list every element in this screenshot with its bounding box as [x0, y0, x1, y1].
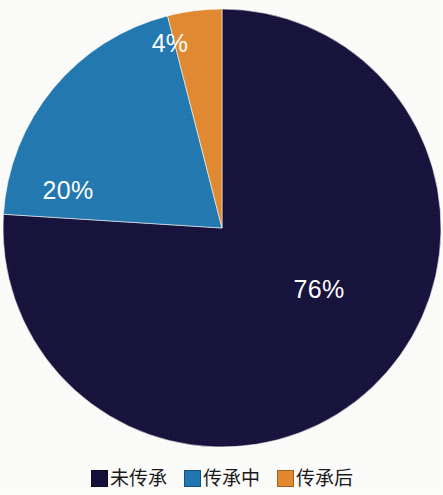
pie-slice-group	[3, 9, 441, 447]
chart-legend: 未传承 传承中 传承后	[0, 461, 443, 495]
legend-swatch-icon-0	[91, 470, 108, 487]
legend-label-2: 传承后	[296, 469, 353, 488]
legend-label-0: 未传承	[110, 469, 167, 488]
slice-label-orange: 4%	[152, 29, 189, 57]
legend-item-1[interactable]: 传承中	[184, 469, 260, 488]
legend-label-1: 传承中	[203, 469, 260, 488]
legend-item-0[interactable]: 未传承	[91, 469, 167, 488]
pie-chart-svg: 76% 20% 4%	[0, 0, 443, 460]
pie-chart-figure: 76% 20% 4% 未传承 传承中 传承后	[0, 0, 443, 495]
legend-swatch-icon-1	[184, 470, 201, 487]
legend-item-2[interactable]: 传承后	[277, 469, 353, 488]
pie-plot-area: 76% 20% 4%	[0, 0, 443, 460]
slice-label-blue: 20%	[43, 176, 94, 204]
legend-swatch-icon-2	[277, 470, 294, 487]
slice-label-navy: 76%	[294, 275, 345, 303]
